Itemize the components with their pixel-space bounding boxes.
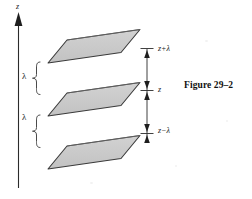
position-label-bottom: z−λ xyxy=(158,127,170,135)
z-axis xyxy=(15,12,23,188)
plane-top xyxy=(48,30,140,64)
scale-arrow-up-top xyxy=(144,50,150,58)
position-scale xyxy=(141,49,154,144)
plane-middle-surface xyxy=(48,83,140,117)
lambda-label-lower: λ xyxy=(22,113,26,122)
brace-upper xyxy=(33,62,41,95)
brace-lower-path xyxy=(33,115,41,148)
plane-bottom xyxy=(48,136,140,170)
z-axis-arrowhead xyxy=(15,12,23,26)
plane-middle xyxy=(48,83,140,117)
position-label-top: z+λ xyxy=(158,45,170,53)
z-axis-label: z xyxy=(16,3,19,11)
lambda-label-upper: λ xyxy=(22,72,26,81)
scale-arrow-up-middle xyxy=(144,92,150,100)
scale-arrow-tail-bottom xyxy=(144,135,150,143)
plane-bottom-surface xyxy=(48,136,140,170)
diagram-canvas xyxy=(0,0,252,199)
scale-arrow-down-middle xyxy=(144,81,150,89)
brace-lower xyxy=(33,115,41,148)
position-label-middle: z xyxy=(158,86,161,94)
plane-top-surface xyxy=(48,30,140,64)
figure-29-2: z λ λ z+λ z z−λ Figure 29–2 xyxy=(0,0,252,199)
figure-caption: Figure 29–2 xyxy=(184,81,233,91)
brace-upper-path xyxy=(33,62,41,95)
scale-arrow-down-bottom xyxy=(144,124,150,132)
